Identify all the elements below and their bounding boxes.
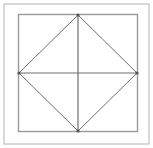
- figure-background: [0, 0, 153, 148]
- vertex-dot-right: [135, 71, 138, 74]
- figure-container: [0, 0, 153, 148]
- vertex-dot-bottom: [76, 129, 79, 132]
- geometric-figure-svg: [0, 0, 153, 148]
- vertex-dot-top: [76, 13, 79, 16]
- vertex-dot-left: [17, 71, 20, 74]
